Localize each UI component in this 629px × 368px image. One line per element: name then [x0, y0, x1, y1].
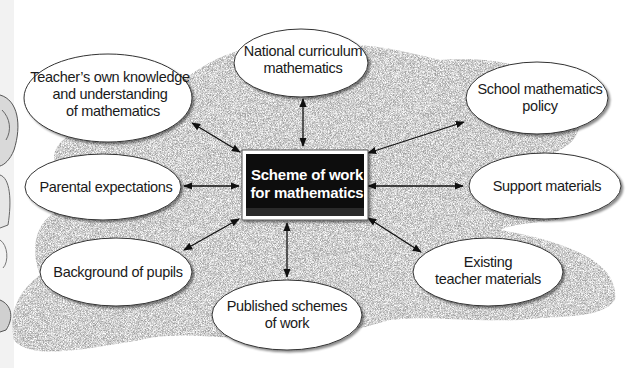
node-background-of-pupils: Background of pupils — [40, 238, 192, 306]
node-label-line: and understanding — [52, 86, 167, 102]
node-label-line: National curriculum — [244, 43, 363, 59]
node-label-line: Background of pupils — [53, 264, 182, 280]
node-label-line: of work — [265, 315, 311, 331]
node-national-curriculum: National curriculum mathematics — [234, 29, 368, 97]
center-node-scheme-of-work: Scheme of work for mathematics — [242, 150, 368, 220]
node-existing-teacher-materials: Existing teacher materials — [413, 238, 563, 306]
center-label-line-1: Scheme of work — [251, 166, 364, 183]
node-label-line: mathematics — [264, 60, 343, 76]
center-label-line-2: for mathematics — [251, 184, 364, 201]
node-school-policy: School mathematics policy — [466, 62, 608, 134]
node-parental-expectations: Parental expectations — [25, 154, 181, 220]
node-label-line: of mathematics — [66, 103, 160, 119]
node-label-line: Parental expectations — [39, 179, 172, 195]
node-label-line: School mathematics — [477, 81, 602, 97]
node-label-line: teacher materials — [435, 271, 541, 287]
node-support-materials: Support materials — [469, 153, 621, 219]
node-teachers-knowledge: Teacher’s own knowledge and understandin… — [24, 54, 192, 142]
diagram-canvas: Teacher’s own knowledge and understandin… — [0, 0, 629, 368]
node-label-line: policy — [522, 98, 558, 114]
node-label-line: Published schemes — [227, 298, 348, 314]
diagram-svg: Teacher’s own knowledge and understandin… — [0, 0, 629, 368]
node-label-line: Existing — [464, 254, 513, 270]
node-label-line: Support materials — [493, 178, 602, 194]
node-published-schemes: Published schemes of work — [212, 280, 362, 350]
node-label-line: Teacher’s own knowledge — [30, 69, 190, 85]
